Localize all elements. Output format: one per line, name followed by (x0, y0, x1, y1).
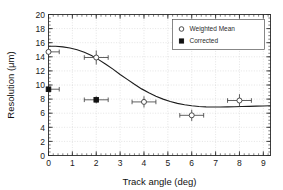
data-point (84, 50, 108, 64)
y-tick-label: 0 (40, 151, 45, 161)
chart-legend: Weighted MeanCorrected (173, 20, 265, 50)
x-tick-label: 1 (70, 158, 75, 168)
data-point (46, 48, 59, 55)
x-tick-label: 0 (46, 158, 51, 168)
resolution-vs-track-angle-chart: 012345678902468101214161820 Track angle … (0, 0, 283, 190)
y-tick-label: 10 (36, 80, 46, 90)
chart-figure: 012345678902468101214161820 Track angle … (0, 0, 283, 190)
fit-curve (49, 46, 271, 107)
legend-label: Weighted Mean (190, 25, 236, 33)
x-axis-title: Track angle (deg) (122, 176, 196, 187)
data-point (180, 110, 204, 121)
y-axis-title: Resolution (μm) (5, 51, 16, 118)
x-tick-label: 7 (213, 158, 218, 168)
y-tick-label: 4 (40, 123, 45, 133)
x-tick-label: 2 (94, 158, 99, 168)
x-tick-label: 5 (165, 158, 170, 168)
y-tick-label: 6 (40, 108, 45, 118)
legend-box (173, 20, 265, 50)
data-point (228, 94, 252, 107)
data-point (46, 86, 59, 92)
data-point (132, 96, 156, 107)
x-tick-label: 4 (142, 158, 147, 168)
y-tick-label: 16 (36, 38, 46, 48)
fit-curve-path (49, 46, 271, 107)
data-points-layer (46, 48, 251, 121)
y-tick-label: 12 (36, 66, 46, 76)
x-tick-label: 6 (189, 158, 194, 168)
x-tick-label: 9 (261, 158, 266, 168)
legend-label: Corrected (190, 37, 219, 44)
data-point (84, 96, 108, 103)
x-tick-label: 8 (237, 158, 242, 168)
y-tick-label: 8 (40, 94, 45, 104)
y-tick-label: 18 (36, 24, 46, 34)
y-tick-label: 2 (40, 137, 45, 147)
y-tick-label: 20 (36, 10, 46, 20)
y-tick-label: 14 (36, 52, 46, 62)
x-tick-label: 3 (118, 158, 123, 168)
